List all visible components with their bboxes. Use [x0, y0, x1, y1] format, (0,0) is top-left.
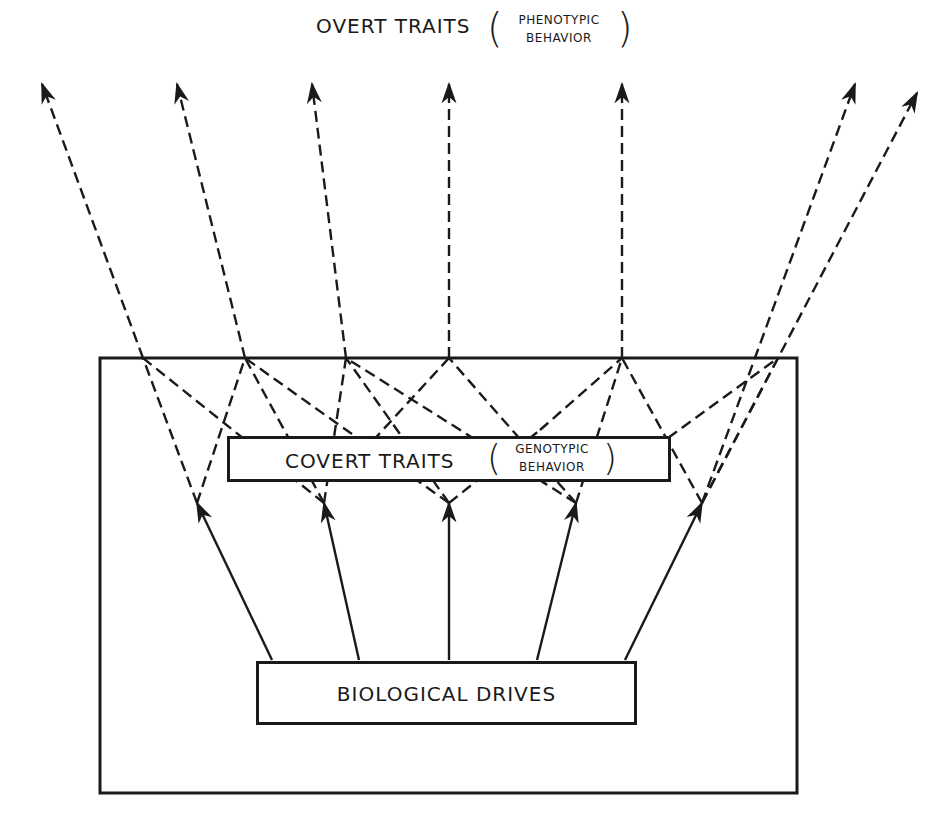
overt-paren-close: ): [617, 8, 633, 48]
overt-traits-title: OVERT TRAITS: [316, 14, 471, 38]
covert-paren-open: (: [487, 439, 501, 477]
biological-drives-label: BIOLOGICAL DRIVES: [259, 682, 634, 706]
covert-traits-title: COVERT TRAITS: [285, 449, 454, 473]
solid-drive-arrows: [197, 503, 702, 660]
covert-sub-line1: GENOTYPIC: [500, 441, 604, 458]
covert-traits-box: COVERT TRAITS ( GENOTYPIC BEHAVIOR ): [227, 436, 671, 482]
covert-sub-line2: BEHAVIOR: [500, 459, 604, 476]
overt-sub-line2: BEHAVIOR: [503, 30, 615, 47]
biological-drives-box: BIOLOGICAL DRIVES: [256, 661, 637, 725]
covert-paren-close: ): [603, 439, 617, 477]
overt-paren-open: (: [487, 8, 503, 48]
overt-sub-line1: PHENOTYPIC: [503, 12, 615, 29]
